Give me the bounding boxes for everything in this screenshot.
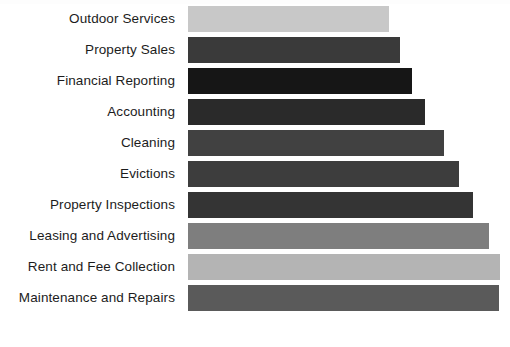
bar (188, 6, 389, 32)
category-label: Maintenance and Repairs (0, 285, 175, 311)
category-label: Cleaning (0, 130, 175, 156)
chart-row: Property Sales (0, 37, 510, 63)
category-label: Evictions (0, 161, 175, 187)
bar (188, 254, 500, 280)
bar (188, 192, 473, 218)
chart-row: Rent and Fee Collection (0, 254, 510, 280)
bar (188, 99, 425, 125)
plot-area: Outdoor Services Property Sales Financia… (0, 0, 510, 347)
chart-row: Maintenance and Repairs (0, 285, 510, 311)
bar (188, 285, 499, 311)
category-label: Financial Reporting (0, 68, 175, 94)
category-label: Property Sales (0, 37, 175, 63)
chart-row: Accounting (0, 99, 510, 125)
bar (188, 223, 489, 249)
chart-row: Financial Reporting (0, 68, 510, 94)
chart-row: Outdoor Services (0, 6, 510, 32)
category-label: Leasing and Advertising (0, 223, 175, 249)
bar (188, 161, 459, 187)
category-label: Outdoor Services (0, 6, 175, 32)
chart-row: Evictions (0, 161, 510, 187)
category-label: Rent and Fee Collection (0, 254, 175, 280)
chart-row: Cleaning (0, 130, 510, 156)
bar-chart: Outdoor Services Property Sales Financia… (0, 0, 510, 347)
chart-row: Leasing and Advertising (0, 223, 510, 249)
category-label: Accounting (0, 99, 175, 125)
bar (188, 37, 400, 63)
category-label: Property Inspections (0, 192, 175, 218)
chart-row: Property Inspections (0, 192, 510, 218)
bar (188, 130, 444, 156)
bar (188, 68, 412, 94)
